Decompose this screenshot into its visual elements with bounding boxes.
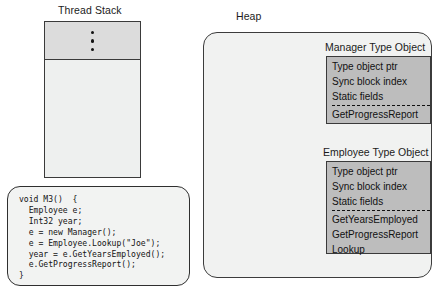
type-object-method: GetProgressReport <box>332 227 430 242</box>
ellipsis-dot <box>91 48 94 51</box>
ellipsis-dot <box>91 31 94 34</box>
employee-type-object-caption: Employee Type Object <box>323 146 428 158</box>
thread-stack-box <box>44 21 141 178</box>
type-object-field: Sync block index <box>332 74 430 89</box>
type-object-method: GetYearsEmployed <box>332 210 430 227</box>
employee-type-object-box: Type object ptr Sync block index Static … <box>326 161 431 254</box>
type-object-method: Lookup <box>332 242 430 257</box>
method-code-box: void M3() { Employee e; Int32 year; e = … <box>7 186 190 286</box>
heap-caption: Heap <box>236 10 262 22</box>
manager-type-object-caption: Manager Type Object <box>325 41 425 53</box>
type-object-field: Type object ptr <box>332 164 430 179</box>
type-object-field: Static fields <box>332 194 430 209</box>
ellipsis-dot <box>91 39 94 42</box>
type-object-field: Sync block index <box>332 179 430 194</box>
diagram-canvas: Thread Stack void M3() { Employee e; Int… <box>0 0 439 293</box>
type-object-method: GetProgressReport <box>332 105 430 122</box>
type-object-field: Type object ptr <box>332 59 430 74</box>
type-object-field: Static fields <box>332 89 430 104</box>
thread-stack-caption: Thread Stack <box>58 4 122 16</box>
manager-type-object-box: Type object ptr Sync block index Static … <box>326 56 431 124</box>
method-source-code: void M3() { Employee e; Int32 year; e = … <box>19 194 189 281</box>
vertical-ellipsis-icon <box>45 22 140 60</box>
